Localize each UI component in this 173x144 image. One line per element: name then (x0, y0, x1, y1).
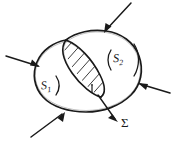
diagram-canvas: S1 S2 Σ (0, 0, 173, 144)
label-surface-2: S2 (113, 52, 124, 68)
surface-boundary-right-arc (66, 40, 105, 98)
paren-s1 (56, 76, 59, 95)
arrow-top (104, 3, 131, 33)
paren-s2-left (108, 50, 111, 70)
outer-ellipse-outline (34, 30, 141, 112)
label-surface-1: S1 (40, 79, 52, 95)
arrow-left (6, 56, 40, 67)
arrow-sigma (98, 95, 118, 122)
diagram-svg (0, 0, 173, 144)
label-intersection-sigma: Σ (121, 116, 129, 129)
arrow-right (138, 83, 170, 93)
intersection-hatching (40, 24, 128, 144)
label-surface-2-subscript: 2 (119, 58, 123, 67)
label-surface-1-subscript: 1 (47, 85, 52, 94)
interior-tick-mark (91, 84, 93, 92)
arrow-bottom-left (31, 112, 65, 137)
